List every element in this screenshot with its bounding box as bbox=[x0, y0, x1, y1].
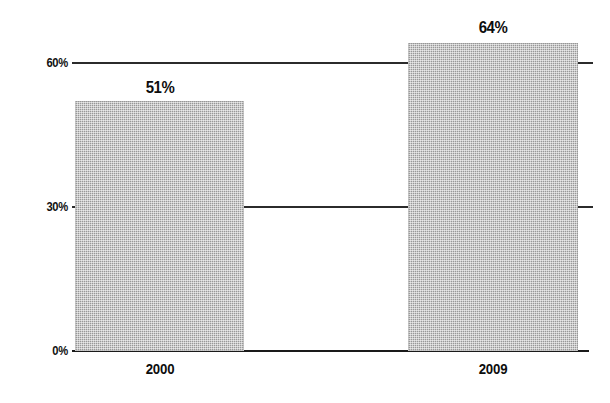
tick-stub-30 bbox=[578, 206, 593, 208]
tick-stub-60 bbox=[578, 62, 593, 64]
y-axis-label-0: 0% bbox=[10, 343, 68, 358]
category-label-2000: 2000 bbox=[116, 360, 204, 377]
value-label-2000: 51% bbox=[116, 78, 204, 98]
bar-chart: 60% 30% 0% 51% 64% 2000 2009 bbox=[0, 0, 610, 403]
y-axis-label-60: 60% bbox=[10, 55, 68, 70]
y-axis-label-30: 30% bbox=[10, 199, 68, 214]
plot-area: 60% 30% 0% 51% 64% 2000 2009 bbox=[0, 0, 610, 403]
category-label-2009: 2009 bbox=[449, 360, 537, 377]
bar-2000[interactable] bbox=[75, 101, 244, 351]
bar-2009[interactable] bbox=[408, 43, 578, 351]
value-label-2009: 64% bbox=[449, 18, 537, 38]
